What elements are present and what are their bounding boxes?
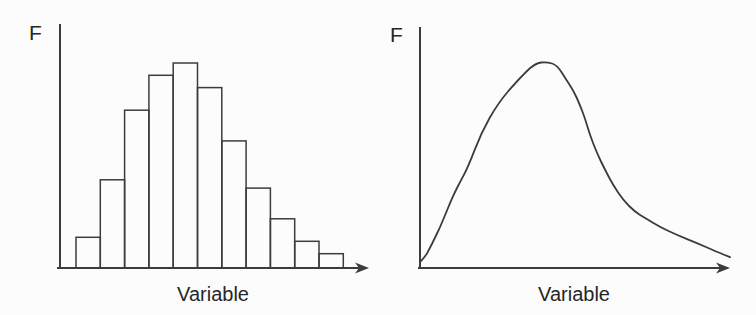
histogram-bar <box>319 254 343 268</box>
histogram-plot-area <box>57 24 369 274</box>
histogram-bar <box>76 237 100 268</box>
frequency-curve <box>420 62 730 262</box>
histogram-bar <box>222 141 246 268</box>
histogram-bar <box>173 63 197 268</box>
curve-panel: F Variable <box>378 0 756 315</box>
histogram-chart: F Variable <box>0 0 378 315</box>
curve-x-axis-label: Variable <box>538 283 610 305</box>
histogram-bar <box>270 219 294 268</box>
histogram-x-axis-label: Variable <box>177 283 249 305</box>
histogram-bar <box>100 180 124 268</box>
curve-plot-area <box>418 27 730 274</box>
curve-chart: F Variable <box>378 0 756 315</box>
histogram-y-axis-label: F <box>29 21 42 44</box>
histogram-bar <box>149 75 173 268</box>
histogram-panel: F Variable <box>0 0 378 315</box>
histogram-bar <box>198 88 222 268</box>
histogram-bar <box>125 110 149 268</box>
histogram-bar <box>295 241 319 268</box>
histogram-bar <box>246 188 270 268</box>
curve-y-axis-label: F <box>390 23 403 46</box>
frequency-distribution-figure: F Variable F Variable <box>0 0 756 315</box>
